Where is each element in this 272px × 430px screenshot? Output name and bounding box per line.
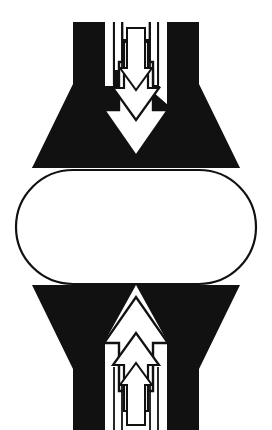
bottom-gap-right [159, 367, 167, 430]
figure-canvas: Compression / Convergence Symbol Two mir… [0, 0, 272, 430]
top-gap-right [159, 22, 167, 86]
symbol-figure: Compression / Convergence Symbol Two mir… [0, 0, 272, 430]
top-gap-left [105, 22, 113, 86]
centre-stadium [16, 170, 256, 284]
bottom-gap-left [105, 367, 113, 430]
